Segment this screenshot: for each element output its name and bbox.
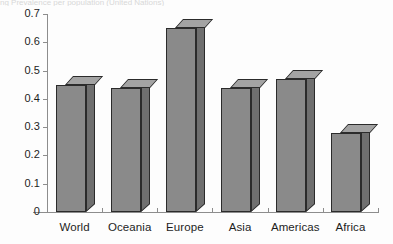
- bar-africa: [331, 124, 361, 212]
- bar-top-face: [65, 76, 103, 85]
- bar-world: [56, 76, 86, 212]
- y-axis-tick-mark: [43, 42, 48, 43]
- x-axis-tick-mark: [323, 208, 324, 213]
- x-axis-tick-mark: [157, 208, 158, 213]
- bar-front-face: [166, 28, 196, 212]
- bar-front-face: [111, 88, 141, 212]
- x-axis-label-africa: Africa: [305, 221, 393, 234]
- y-axis-tick-mark: [43, 155, 48, 156]
- x-axis-origin-tick-mark: [47, 208, 48, 213]
- bar-side-face: [196, 20, 205, 212]
- bar-top-face: [120, 79, 158, 88]
- bar-top-face: [230, 79, 268, 88]
- bar-top-face: [285, 70, 323, 79]
- x-axis-tick-mark: [212, 208, 213, 213]
- x-axis-line: [33, 212, 378, 213]
- x-axis-tick-mark: [102, 208, 103, 213]
- bar-front-face: [221, 88, 251, 212]
- bar-americas: [276, 70, 306, 212]
- bar-side-face: [141, 79, 150, 212]
- y-axis-tick-label: 0: [14, 206, 40, 217]
- x-axis-tick-mark: [268, 208, 269, 213]
- bar-top-face: [340, 124, 378, 133]
- bar-front-face: [56, 85, 86, 212]
- y-axis-tick-label: 0.4: [14, 93, 40, 104]
- bar-side-face: [306, 71, 315, 212]
- y-axis-tick-mark: [43, 184, 48, 185]
- y-axis-tick-label: 0.2: [14, 149, 40, 160]
- y-axis-tick-label: 0.7: [14, 8, 40, 19]
- bar-front-face: [276, 79, 306, 212]
- y-axis-tick-mark: [43, 14, 48, 15]
- bar-oceania: [111, 79, 141, 212]
- bar-front-face: [331, 133, 361, 212]
- bar-side-face: [251, 79, 260, 212]
- y-axis-tick-label: 0.5: [14, 65, 40, 76]
- y-axis-tick-label: 0.6: [14, 36, 40, 47]
- y-axis-tick-mark: [43, 71, 48, 72]
- y-axis-tick-mark: [43, 99, 48, 100]
- bar-top-face: [175, 19, 213, 28]
- y-axis-tick-mark: [43, 127, 48, 128]
- x-axis-tick-mark: [378, 208, 379, 213]
- y-axis-tick-label: 0.1: [14, 178, 40, 189]
- bar-europe: [166, 19, 196, 212]
- figure-container: ng Prevalence per population (United Nat…: [0, 0, 393, 244]
- y-axis-tick-label: 0.3: [14, 121, 40, 132]
- bar-chart-plot-area: 0.70.60.50.40.30.20.10WorldOceaniaEurope…: [0, 0, 393, 244]
- bar-side-face: [361, 125, 370, 212]
- bar-asia: [221, 79, 251, 212]
- bar-side-face: [86, 77, 95, 212]
